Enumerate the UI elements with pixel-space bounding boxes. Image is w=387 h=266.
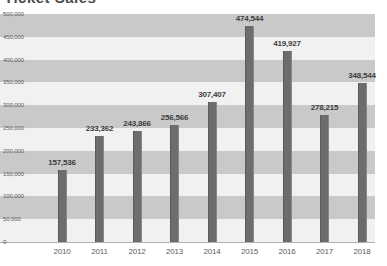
plot-area: [0, 12, 375, 243]
background-band: [0, 174, 375, 197]
x-axis-tick-label: 2010: [54, 247, 71, 256]
y-axis-tick-label: 500,000: [3, 11, 24, 17]
bar-2012[interactable]: [133, 131, 142, 242]
x-axis-tick-label: 2017: [316, 247, 333, 256]
y-axis-tick-label: 450,000: [3, 34, 24, 40]
bar-value-label: 243,866: [123, 119, 151, 128]
background-band: [0, 128, 375, 151]
bar-chart: Ticket Sales 2019 ed. 050,000100,000150,…: [0, 0, 387, 266]
background-band: [0, 82, 375, 105]
x-axis-tick-label: 2018: [354, 247, 371, 256]
bar-value-label: 307,407: [198, 90, 226, 99]
bar-value-label: 474,544: [236, 14, 264, 23]
y-axis-tick-label: 350,000: [3, 79, 24, 85]
x-axis-tick-label: 2011: [91, 247, 107, 256]
x-axis-line: [0, 242, 375, 243]
x-axis-tick-label: 2016: [279, 247, 296, 256]
background-band: [0, 37, 375, 60]
x-axis-tick-label: 2014: [204, 247, 221, 256]
bar-2017[interactable]: [320, 115, 329, 242]
background-band: [0, 60, 375, 83]
page-title: Ticket Sales: [4, 0, 96, 6]
clipped-title-strip: Ticket Sales 2019 ed.: [0, 0, 387, 10]
y-axis-tick-label: 300,000: [3, 102, 24, 108]
bar-2018[interactable]: [358, 83, 367, 242]
y-axis-tick-label: 400,000: [3, 57, 24, 63]
y-axis-tick-label: 150,000: [3, 171, 24, 177]
bar-value-label: 419,927: [273, 39, 301, 48]
background-band: [0, 14, 375, 37]
bar-value-label: 233,362: [86, 124, 114, 133]
x-axis-tick-label: 2013: [166, 247, 183, 256]
y-axis-tick-label: 50,000: [3, 216, 21, 222]
bar-value-label: 256,566: [161, 113, 189, 122]
bar-2016[interactable]: [283, 51, 292, 242]
background-band: [0, 196, 375, 219]
y-axis-tick-label: 250,000: [3, 125, 24, 131]
y-axis-tick-label: 100,000: [3, 193, 24, 199]
bar-2013[interactable]: [170, 125, 179, 242]
y-axis-tick-label: 0: [3, 239, 6, 245]
background-band: [0, 219, 375, 242]
bar-value-label: 348,544: [348, 71, 376, 80]
bar-2015[interactable]: [245, 26, 254, 242]
x-axis-tick-label: 2012: [129, 247, 146, 256]
y-axis-tick-label: 200,000: [3, 148, 24, 154]
bar-value-label: 278,215: [311, 103, 339, 112]
bar-value-label: 157,536: [48, 158, 76, 167]
x-axis-tick-label: 2015: [241, 247, 258, 256]
bar-2014[interactable]: [208, 102, 217, 242]
bar-2010[interactable]: [58, 170, 67, 242]
bar-2011[interactable]: [95, 136, 104, 242]
